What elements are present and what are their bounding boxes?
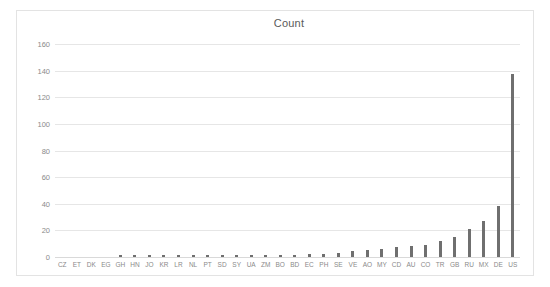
x-axis-tick-label: JO [142,261,157,268]
chart-screenshot: Count 160140120100806040200 CZETDKEGGHHN… [0,0,550,287]
bar-slot [113,45,128,258]
bar-slot [128,45,143,258]
x-axis-tick-label: UA [244,261,259,268]
bar-slot [244,45,259,258]
x-axis-tick-label: HN [128,261,143,268]
bar[interactable] [482,221,485,258]
bar-slot [375,45,390,258]
x-axis-tick-label: MX [476,261,491,268]
y-axis-tick-label: 20 [42,226,50,235]
bar-slot [99,45,114,258]
bars-group [55,45,520,258]
bar-slot [55,45,70,258]
y-axis-tick-label: 0 [46,253,50,262]
x-axis-tick-label: NL [186,261,201,268]
bar-slot [491,45,506,258]
x-axis-tick-label: TR [433,261,448,268]
bar-slot [404,45,419,258]
bar-slot [433,45,448,258]
plot-area: 160140120100806040200 [55,45,520,258]
bar-slot [171,45,186,258]
bar-slot [346,45,361,258]
y-axis-tick-label: 60 [42,173,50,182]
x-axis-tick-label: EG [99,261,114,268]
bar-slot [70,45,85,258]
bar[interactable] [511,74,514,258]
y-axis-tick-label: 100 [37,119,50,128]
x-axis-tick-label: ZM [258,261,273,268]
x-axis-tick-labels: CZETDKEGGHHNJOKRLRNLPTSDSYUAZMBOBDECPHSE… [55,261,520,268]
x-axis-tick-label: LR [171,261,186,268]
bar-slot [302,45,317,258]
x-axis-tick-label: SE [331,261,346,268]
bar-slot [258,45,273,258]
x-axis-tick-label: BD [288,261,303,268]
x-axis-tick-label: BO [273,261,288,268]
x-axis-tick-label: AU [404,261,419,268]
bar-slot [418,45,433,258]
x-axis-tick-label: CZ [55,261,70,268]
y-axis-tick-label: 160 [37,40,50,49]
x-axis-tick-label: VE [346,261,361,268]
bar-slot [142,45,157,258]
bar-slot [447,45,462,258]
bar-slot [317,45,332,258]
chart-frame: Count 160140120100806040200 CZETDKEGGHHN… [16,10,534,276]
bar-slot [273,45,288,258]
x-axis-tick-label: MY [375,261,390,268]
bar-slot [476,45,491,258]
x-axis-tick-label: RU [462,261,477,268]
x-axis-tick-label: DK [84,261,99,268]
x-axis-line [55,257,520,258]
y-axis-tick-label: 120 [37,93,50,102]
x-axis-tick-label: KR [157,261,172,268]
bar-slot [288,45,303,258]
x-axis-tick-label: ET [70,261,85,268]
bar-slot [215,45,230,258]
x-axis-tick-label: CO [418,261,433,268]
bar[interactable] [468,229,471,258]
x-axis-tick-label: AO [360,261,375,268]
bar-slot [186,45,201,258]
bar[interactable] [497,206,500,258]
bar-slot [229,45,244,258]
x-axis-tick-label: GB [447,261,462,268]
x-axis-tick-label: CD [389,261,404,268]
bar-slot [389,45,404,258]
x-axis-tick-label: PT [200,261,215,268]
x-axis-tick-label: DE [491,261,506,268]
x-axis-tick-label: PH [317,261,332,268]
y-axis-tick-label: 80 [42,146,50,155]
x-axis-tick-label: GH [113,261,128,268]
x-axis-tick-label: EC [302,261,317,268]
bar-slot [200,45,215,258]
bar-slot [462,45,477,258]
bar-slot [84,45,99,258]
x-axis-tick-label: SY [229,261,244,268]
chart-title: Count [17,17,533,29]
bar[interactable] [424,245,427,258]
bar[interactable] [439,241,442,258]
bar[interactable] [453,237,456,258]
x-axis-tick-label: SD [215,261,230,268]
y-axis-tick-label: 40 [42,199,50,208]
bar-slot [360,45,375,258]
bar-slot [505,45,520,258]
bar-slot [331,45,346,258]
y-axis-tick-label: 140 [37,66,50,75]
x-axis-tick-label: US [505,261,520,268]
bar-slot [157,45,172,258]
